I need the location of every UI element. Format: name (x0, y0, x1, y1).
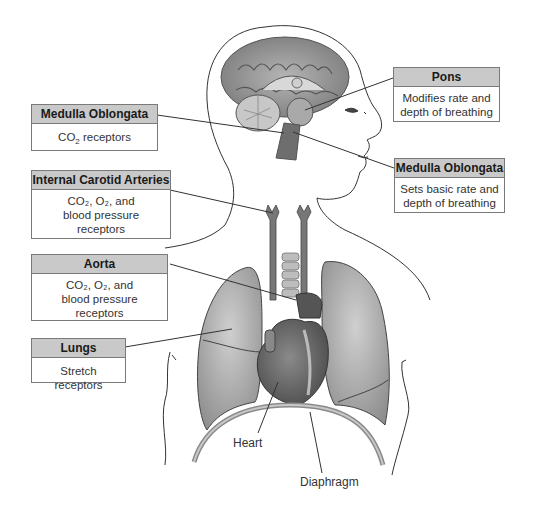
heart (257, 293, 328, 405)
trachea (282, 253, 299, 297)
box-title: Medulla Oblongata (32, 105, 157, 124)
lungs-box: Lungs Stretch receptors (31, 338, 126, 383)
box-title: Pons (394, 68, 499, 87)
box-body: Stretch receptors (32, 358, 125, 398)
brain (221, 37, 349, 160)
box-body: CO2 receptors (32, 124, 157, 150)
medulla-oblongata-right-box: Medulla Oblongata Sets basic rate and de… (394, 158, 505, 213)
box-title: Internal Carotid Arteries (32, 171, 170, 190)
box-title: Lungs (32, 339, 125, 358)
box-title: Medulla Oblongata (395, 159, 504, 178)
box-body: Sets basic rate and depth of breathing (395, 178, 504, 216)
diagram-canvas: Medulla Oblongata CO2 receptors Internal… (0, 0, 536, 517)
pons-box: Pons Modifies rate and depth of breathin… (393, 67, 500, 122)
box-title: Aorta (32, 255, 167, 274)
left-lung (197, 267, 262, 430)
diaphragm-label: Diaphragm (300, 475, 359, 489)
right-lung (322, 262, 390, 425)
box-body: CO₂, O₂, and blood pressure receptors (32, 274, 167, 326)
internal-carotid-arteries-box: Internal Carotid Arteries CO₂, O₂, and b… (31, 170, 171, 239)
heart-label: Heart (233, 436, 262, 450)
aorta-box: Aorta CO₂, O₂, and blood pressure recept… (31, 254, 168, 321)
medulla-oblongata-left-box: Medulla Oblongata CO2 receptors (31, 104, 158, 151)
box-body: Modifies rate and depth of breathing (394, 87, 499, 125)
box-body: CO₂, O₂, and blood pressure receptors (32, 190, 170, 242)
